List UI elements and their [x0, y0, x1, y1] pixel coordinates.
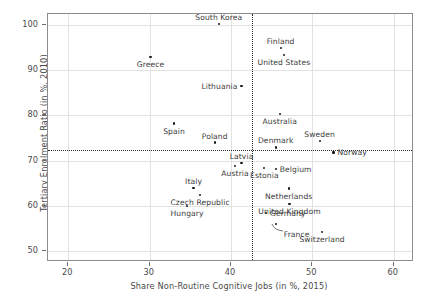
gridline-horizontal [48, 206, 412, 207]
data-point-label: Poland [202, 132, 228, 141]
data-point-label: Finland [267, 37, 295, 46]
x-axis-tick-label: 30 [134, 267, 164, 277]
data-point-label: Belgium [280, 165, 312, 174]
data-point[interactable] [199, 194, 201, 196]
x-axis-tick [311, 262, 312, 266]
data-point[interactable] [263, 167, 265, 169]
y-axis-tick [42, 250, 46, 251]
x-axis-tick-label: 40 [215, 267, 245, 277]
plot-panel: South KoreaFinlandUnited StatesGreeceLit… [47, 13, 413, 261]
y-axis-tick [42, 114, 46, 115]
data-point-label: Italy [185, 177, 202, 186]
y-axis-tick-label: 70 [6, 155, 38, 165]
x-axis-tick [393, 262, 394, 266]
gridline-vertical [231, 14, 232, 260]
y-axis-tick [42, 205, 46, 206]
data-point[interactable] [279, 113, 281, 115]
y-axis-tick-label: 90 [6, 64, 38, 74]
data-point[interactable] [192, 187, 194, 189]
x-axis-tick [67, 262, 68, 266]
data-point[interactable] [149, 56, 151, 58]
data-point-label: Sweden [304, 130, 335, 139]
data-point-label: Latvia [230, 152, 254, 161]
x-axis-tick-label: 50 [296, 267, 326, 277]
y-axis-tick-label: 80 [6, 109, 38, 119]
data-point[interactable] [173, 122, 175, 124]
x-axis-tick-label: 60 [378, 267, 408, 277]
gridline-horizontal [48, 25, 412, 26]
data-point[interactable] [275, 168, 277, 170]
data-point[interactable] [186, 205, 188, 207]
data-point-label: Spain [163, 127, 185, 136]
data-point[interactable] [283, 54, 285, 56]
label-leader-line [271, 223, 285, 235]
y-axis-tick [42, 24, 46, 25]
gridline-horizontal [48, 115, 412, 116]
data-point[interactable] [240, 162, 242, 164]
y-axis-tick-label: 50 [6, 245, 38, 255]
data-point[interactable] [280, 47, 282, 49]
data-point[interactable] [234, 165, 236, 167]
x-axis-tick [149, 262, 150, 266]
gridline-vertical [394, 14, 395, 260]
data-point[interactable] [288, 187, 290, 189]
data-point-label: Netherlands [265, 192, 312, 201]
data-point[interactable] [214, 141, 216, 143]
data-point[interactable] [332, 151, 334, 153]
y-axis-tick [42, 69, 46, 70]
gridline-horizontal [48, 251, 412, 252]
x-axis-tick-label: 20 [52, 267, 82, 277]
data-point[interactable] [321, 231, 323, 233]
data-point-label: South Korea [195, 13, 242, 22]
data-point-label: Lithuania [201, 82, 237, 91]
data-point[interactable] [319, 140, 321, 142]
x-axis-tick [230, 262, 231, 266]
x-axis-title: Share Non-Routine Cognitive Jobs (in %, … [62, 281, 396, 291]
data-point-label: Austria [221, 169, 249, 178]
gridline-horizontal [48, 70, 412, 71]
data-point[interactable] [240, 85, 242, 87]
scatter-plot-figure: Tertiary Enrolment Ratio (in %, 2010) Sh… [0, 0, 426, 304]
data-point-label: Czech Republic [170, 198, 229, 207]
data-point-label: Germany [270, 209, 306, 218]
data-point-label: Norway [337, 148, 366, 157]
data-point-label: Estonia [250, 171, 279, 180]
data-point-label: Australia [263, 117, 298, 126]
data-point-label: Greece [137, 60, 165, 69]
data-point-label: United States [257, 58, 310, 67]
data-point-label: Denmark [258, 136, 294, 145]
y-axis-tick-label: 60 [6, 200, 38, 210]
y-axis-tick-label: 100 [6, 19, 38, 29]
data-point-label: Switzerland [299, 235, 344, 244]
gridline-vertical [150, 14, 151, 260]
data-point[interactable] [275, 146, 277, 148]
data-point-label: Hungary [171, 209, 204, 218]
gridline-vertical [68, 14, 69, 260]
y-axis-tick [42, 160, 46, 161]
reference-line-vertical [252, 14, 253, 260]
